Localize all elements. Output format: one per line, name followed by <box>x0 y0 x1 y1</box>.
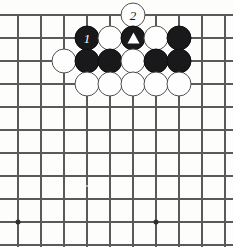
move-number-label: 1 <box>84 32 91 45</box>
grid-line-horizontal-10 <box>0 244 233 246</box>
stone-black-r2-c179[interactable] <box>167 49 192 74</box>
go-board-diagram: 21 <box>0 0 233 247</box>
stone-black-r2-c87[interactable] <box>75 49 100 74</box>
stone-white-r3-c110[interactable] <box>98 72 123 97</box>
grid-line-horizontal-7 <box>0 175 233 177</box>
grid-line-vertical-0 <box>17 15 19 247</box>
stone-white-r2-c64[interactable] <box>52 49 77 74</box>
stone-black-r2-c156[interactable] <box>144 49 169 74</box>
grid-line-horizontal-8 <box>0 198 233 200</box>
stone-white-r3-c133[interactable] <box>121 72 146 97</box>
stone-white-r3-c156[interactable] <box>144 72 169 97</box>
stone-white-r3-c179[interactable] <box>167 72 192 97</box>
grid-line-vertical-9 <box>224 15 226 247</box>
stone-white-r1-c110[interactable] <box>98 26 123 51</box>
stone-white-r1-c156[interactable] <box>144 26 169 51</box>
stone-white-r3-c87[interactable] <box>75 72 100 97</box>
move-number-label: 2 <box>130 9 137 22</box>
scan-artifact-0 <box>86 185 88 187</box>
stone-white-r2-c133[interactable] <box>121 49 146 74</box>
stone-black-triangle[interactable] <box>121 26 146 51</box>
stone-white-move-2[interactable]: 2 <box>121 3 146 28</box>
grid-line-horizontal-0 <box>0 14 233 16</box>
grid-line-horizontal-4 <box>0 106 233 108</box>
grid-line-vertical-1 <box>40 15 42 247</box>
grid-line-horizontal-9 <box>0 221 233 223</box>
triangle-mark-icon <box>127 33 139 44</box>
star-point-right <box>154 220 159 225</box>
grid-line-horizontal-6 <box>0 152 233 154</box>
star-point-left <box>16 220 21 225</box>
stone-black-r2-c110[interactable] <box>98 49 123 74</box>
stone-black-move-1[interactable]: 1 <box>75 26 100 51</box>
grid-line-vertical-8 <box>201 15 203 247</box>
grid-line-horizontal-5 <box>0 129 233 131</box>
stone-black-r1-c179[interactable] <box>167 26 192 51</box>
